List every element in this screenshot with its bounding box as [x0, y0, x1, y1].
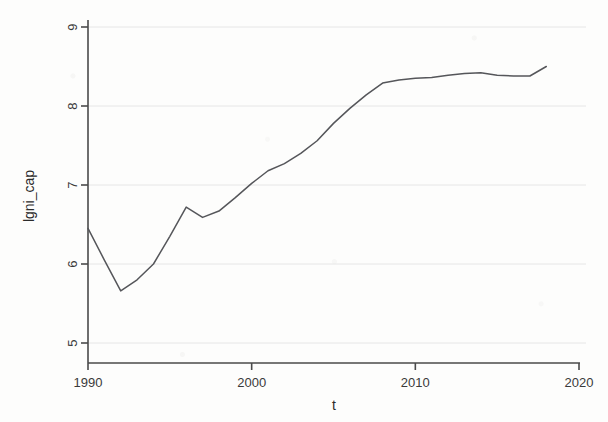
y-tick-label: 7 [65, 181, 80, 188]
y-tick-label: 6 [65, 260, 80, 267]
data-series-line [88, 67, 546, 291]
gridlines [89, 27, 586, 343]
line-chart-plot: 56789 1990200020102020 lgni_cap t [0, 0, 608, 422]
y-axis-title: lgni_cap [21, 170, 37, 222]
chart-figure: 56789 1990200020102020 lgni_cap t [0, 0, 608, 422]
x-axis-title: t [332, 397, 336, 413]
axis-lines [88, 20, 580, 363]
y-tick-label: 9 [65, 23, 80, 30]
x-tick-label: 1990 [74, 375, 103, 390]
y-tick-label: 8 [65, 102, 80, 109]
x-tick-label: 2000 [237, 375, 266, 390]
x-tick-label: 2010 [401, 375, 430, 390]
y-tick-label: 5 [65, 339, 80, 346]
y-axis-ticks: 56789 [65, 23, 89, 346]
x-axis-ticks: 1990200020102020 [74, 363, 594, 390]
x-tick-label: 2020 [565, 375, 594, 390]
